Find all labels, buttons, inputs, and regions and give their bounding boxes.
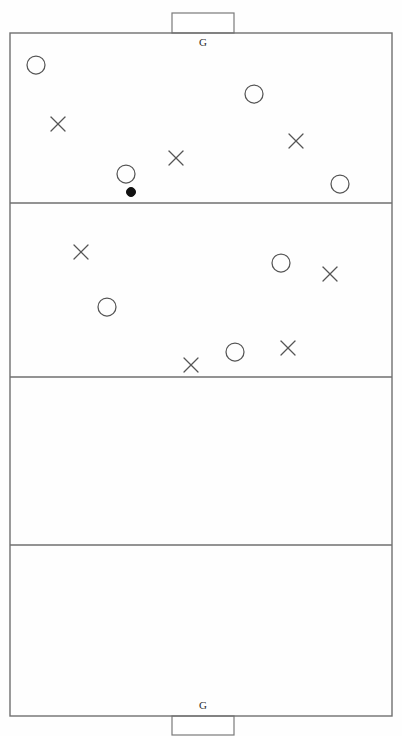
markers-layer <box>27 56 349 372</box>
pitch-svg-canvas: GG <box>0 0 402 736</box>
circle-player-4 <box>331 175 349 193</box>
circle-player-6 <box>98 298 116 316</box>
circle-player-5 <box>272 254 290 272</box>
ball-markers-group <box>127 188 136 197</box>
field-outline <box>10 33 392 716</box>
circle-markers-group <box>27 56 349 361</box>
circle-player-2 <box>245 85 263 103</box>
goal-top-label: G <box>199 36 207 48</box>
goal-bottom-label: G <box>199 699 207 711</box>
goal-boxes-layer <box>172 13 234 735</box>
cross-player-4 <box>74 245 88 259</box>
cross-player-2 <box>169 151 183 165</box>
ball <box>127 188 136 197</box>
pitch-diagram: GG <box>0 0 402 736</box>
cross-player-3 <box>289 134 303 148</box>
zone-dividers-layer <box>10 203 392 545</box>
cross-player-5 <box>323 267 337 281</box>
circle-player-7 <box>226 343 244 361</box>
goal-labels-layer: GG <box>199 36 207 711</box>
cross-markers-group <box>51 117 337 372</box>
cross-player-7 <box>184 358 198 372</box>
cross-player-6 <box>281 341 295 355</box>
cross-player-1 <box>51 117 65 131</box>
goal-bottom-box <box>172 716 234 735</box>
circle-player-1 <box>27 56 45 74</box>
circle-player-3 <box>117 165 135 183</box>
goal-top-box <box>172 13 234 33</box>
